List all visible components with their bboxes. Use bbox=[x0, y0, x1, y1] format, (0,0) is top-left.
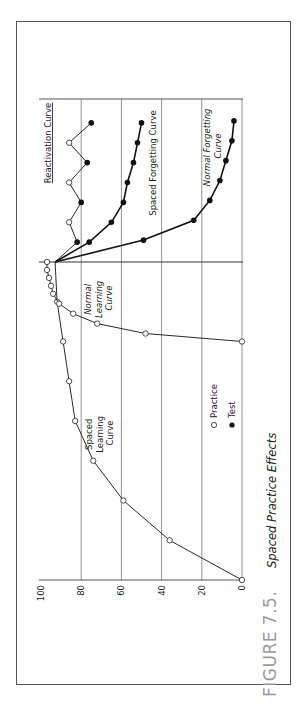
legend: Practice Test bbox=[209, 384, 237, 428]
practice-point bbox=[239, 577, 244, 582]
test-point bbox=[141, 237, 147, 243]
test-point bbox=[135, 140, 141, 146]
practice-point bbox=[60, 339, 65, 344]
practice-point bbox=[44, 267, 49, 272]
practice-point bbox=[72, 418, 77, 423]
tick-label: 80 bbox=[76, 585, 86, 596]
practice-marker-icon bbox=[211, 422, 216, 427]
figure-caption: FIGURE 7.5. Spaced Practice Effects bbox=[260, 433, 280, 697]
practice-point bbox=[66, 140, 71, 145]
practice-point bbox=[239, 339, 244, 344]
label-spaced-learning: Spaced Learning Curve bbox=[84, 413, 115, 453]
practice-point bbox=[70, 311, 75, 316]
test-point bbox=[109, 219, 115, 225]
label-reactivation: Reactivation Curve bbox=[43, 103, 53, 184]
practice-point bbox=[44, 259, 49, 264]
series-layer bbox=[44, 118, 244, 583]
practice-point bbox=[46, 275, 51, 280]
practice-point bbox=[50, 291, 55, 296]
curve-labels: Spaced Learning Curve Normal Learning Cu… bbox=[43, 103, 223, 453]
practice-point bbox=[66, 180, 71, 185]
practice-point bbox=[91, 458, 96, 463]
series-line bbox=[55, 123, 91, 262]
practice-point bbox=[95, 321, 100, 326]
test-point bbox=[84, 160, 90, 166]
tick-label: 40 bbox=[157, 585, 167, 596]
label-normal-forgetting: Normal Forgetting Curve bbox=[202, 106, 223, 186]
test-point bbox=[88, 120, 94, 126]
test-point bbox=[131, 160, 137, 166]
practice-point bbox=[48, 283, 53, 288]
test-point bbox=[125, 180, 131, 186]
test-point bbox=[78, 200, 84, 206]
practice-point bbox=[66, 220, 71, 225]
gridlines bbox=[39, 99, 243, 580]
test-point bbox=[86, 239, 92, 245]
tick-label: 100 bbox=[36, 585, 46, 601]
test-marker-icon bbox=[229, 422, 234, 427]
test-point bbox=[191, 217, 197, 223]
practice-point bbox=[143, 331, 148, 336]
test-point bbox=[139, 120, 145, 126]
legend-practice-label: Practice bbox=[209, 384, 219, 418]
test-point bbox=[223, 158, 229, 164]
test-point bbox=[217, 178, 223, 184]
tick-label: 0 bbox=[237, 585, 247, 590]
practice-point bbox=[121, 498, 126, 503]
test-point bbox=[229, 138, 235, 144]
value-axis-ticks: 020406080100 bbox=[36, 585, 247, 601]
chart: 020406080100 Spaced Learning Curve Norma… bbox=[0, 0, 303, 704]
practice-point bbox=[167, 538, 172, 543]
series-line bbox=[47, 262, 242, 342]
practice-point bbox=[66, 379, 71, 384]
label-normal-learning: Normal Learning Curve bbox=[83, 278, 114, 318]
test-point bbox=[74, 239, 80, 245]
label-spaced-forgetting: Spaced Forgetting Curve bbox=[148, 110, 158, 215]
legend-test-label: Test bbox=[227, 401, 237, 419]
test-point bbox=[231, 118, 237, 124]
figure-title: Spaced Practice Effects bbox=[265, 433, 279, 568]
test-point bbox=[121, 200, 127, 206]
test-point bbox=[207, 198, 213, 204]
figure-number: FIGURE 7.5. bbox=[260, 591, 280, 697]
tick-label: 20 bbox=[197, 585, 207, 596]
tick-label: 60 bbox=[116, 585, 126, 596]
practice-point bbox=[56, 301, 61, 306]
